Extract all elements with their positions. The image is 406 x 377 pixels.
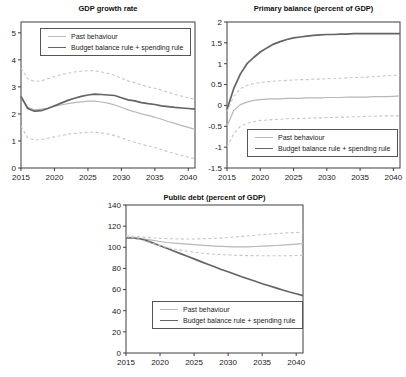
legend: Past behaviour Budget balance rule + spe… (40, 28, 191, 56)
legend-item-past-behaviour: Past behaviour (48, 33, 183, 40)
svg-text:2020: 2020 (251, 173, 269, 182)
public-debt-chart: 0204060801001201402015202020252030203520… (100, 190, 310, 377)
primary-balance-plot: -1.5-1-0.500.511.52201520202025203020352… (203, 0, 406, 190)
chart-title: Primary balance (percent of GDP) (227, 5, 400, 13)
svg-text:5: 5 (12, 29, 17, 38)
svg-text:2035: 2035 (146, 173, 164, 182)
legend: Past behaviour Budget balance rule + spe… (152, 301, 303, 329)
svg-text:60: 60 (112, 285, 121, 294)
svg-text:20: 20 (112, 328, 121, 337)
svg-text:2: 2 (218, 18, 223, 27)
legend-line-sample-dark (255, 148, 273, 149)
svg-text:1.5: 1.5 (211, 39, 223, 48)
svg-text:120: 120 (108, 222, 122, 231)
svg-text:2020: 2020 (151, 358, 169, 367)
legend-line-sample-dark (160, 320, 178, 321)
svg-text:1: 1 (12, 137, 17, 146)
legend-label: Budget balance rule + spending rule (183, 317, 295, 324)
legend: Past behaviour Budget balance rule + spe… (247, 129, 398, 157)
svg-text:-1.5: -1.5 (208, 164, 222, 173)
svg-text:2035: 2035 (253, 358, 271, 367)
svg-text:0.5: 0.5 (211, 80, 223, 89)
legend-line-sample-light (255, 137, 273, 138)
legend-item-budget-rule: Budget balance rule + spending rule (48, 44, 183, 51)
svg-text:-0.5: -0.5 (208, 122, 222, 131)
legend-line-sample-light (160, 309, 178, 310)
legend-label: Budget balance rule + spending rule (278, 145, 390, 152)
primary-balance-chart: -1.5-1-0.500.511.52201520202025203020352… (203, 0, 406, 190)
legend-line-sample-light (48, 36, 66, 37)
figure-panel: 012345201520202025203020352040 GDP growt… (0, 0, 406, 377)
svg-text:2035: 2035 (351, 173, 369, 182)
legend-item-budget-rule: Budget balance rule + spending rule (255, 145, 390, 152)
svg-text:2: 2 (12, 110, 17, 119)
svg-text:2015: 2015 (117, 358, 135, 367)
legend-label: Past behaviour (71, 33, 118, 40)
svg-text:0: 0 (12, 164, 17, 173)
gdp-growth-chart: 012345201520202025203020352040 GDP growt… (0, 0, 203, 190)
svg-text:2040: 2040 (384, 173, 402, 182)
legend-label: Past behaviour (278, 134, 325, 141)
legend-label: Budget balance rule + spending rule (71, 44, 183, 51)
svg-text:2015: 2015 (12, 173, 30, 182)
legend-line-sample-dark (48, 47, 66, 48)
svg-text:40: 40 (112, 307, 121, 316)
svg-text:2025: 2025 (79, 173, 97, 182)
svg-text:2040: 2040 (287, 358, 305, 367)
svg-text:2015: 2015 (218, 173, 236, 182)
svg-text:0: 0 (218, 101, 223, 110)
public-debt-plot: 0204060801001201402015202020252030203520… (100, 190, 310, 377)
svg-text:2020: 2020 (46, 173, 64, 182)
svg-text:-1: -1 (215, 143, 223, 152)
legend-item-past-behaviour: Past behaviour (160, 306, 295, 313)
svg-text:2040: 2040 (179, 173, 197, 182)
svg-text:4: 4 (12, 56, 17, 65)
svg-text:2025: 2025 (285, 173, 303, 182)
chart-title: GDP growth rate (21, 5, 195, 13)
svg-text:0: 0 (117, 349, 122, 358)
legend-item-past-behaviour: Past behaviour (255, 134, 390, 141)
legend-label: Past behaviour (183, 306, 230, 313)
svg-text:100: 100 (108, 243, 122, 252)
svg-text:2025: 2025 (185, 358, 203, 367)
svg-text:140: 140 (108, 201, 122, 210)
chart-title: Public debt (percent of GDP) (126, 194, 303, 202)
legend-item-budget-rule: Budget balance rule + spending rule (160, 317, 295, 324)
svg-text:2030: 2030 (318, 173, 336, 182)
svg-text:80: 80 (112, 264, 121, 273)
svg-text:1: 1 (218, 60, 223, 69)
svg-text:2030: 2030 (112, 173, 130, 182)
svg-text:2030: 2030 (219, 358, 237, 367)
svg-text:3: 3 (12, 83, 17, 92)
